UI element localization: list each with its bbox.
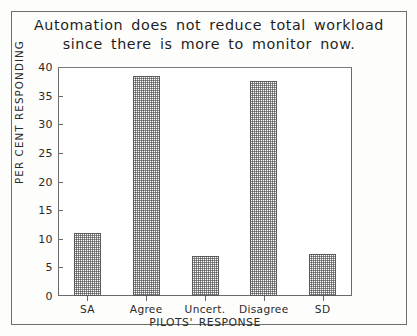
x-tick-label-sa: SA [80, 303, 95, 315]
y-tick-label: 5 [13, 261, 53, 274]
chart-figure: Automation does not reduce total workloa… [0, 0, 417, 336]
chart-title: Automation does not reduce total workloa… [12, 16, 406, 54]
x-tick-label-uncert: Uncert. [185, 303, 226, 315]
bars-layer [58, 67, 352, 296]
bar-uncert [192, 256, 219, 296]
y-tick-mark [58, 182, 63, 183]
bar-disagree [250, 81, 277, 296]
x-axis-label: PILOTS' RESPONSE [58, 316, 352, 329]
y-tick-mark [58, 96, 63, 97]
y-tick-mark [58, 124, 63, 125]
y-tick-mark [58, 210, 63, 211]
x-tick-label-sd: SD [315, 303, 330, 315]
y-tick-mark [58, 239, 63, 240]
y-tick-label: 15 [13, 204, 53, 217]
y-tick-mark [58, 267, 63, 268]
x-tick-mark [87, 296, 88, 301]
bar-agree [133, 76, 160, 296]
y-tick-label: 0 [13, 290, 53, 303]
y-tick-mark [58, 153, 63, 154]
x-tick-mark [205, 296, 206, 301]
x-tick-label-agree: Agree [130, 303, 163, 315]
y-tick-label: 10 [13, 232, 53, 245]
x-tick-mark [323, 296, 324, 301]
bar-sa [74, 233, 101, 296]
y-axis-label: PER CENT RESPONDING [13, 37, 25, 187]
x-tick-mark [264, 296, 265, 301]
x-tick-mark [146, 296, 147, 301]
x-tick-label-disagree: Disagree [239, 303, 288, 315]
bar-sd [309, 254, 336, 296]
